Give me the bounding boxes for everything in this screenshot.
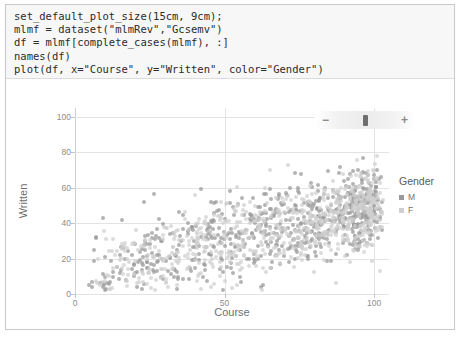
scatter-point xyxy=(219,200,223,204)
scatter-point xyxy=(228,189,232,193)
scatter-point xyxy=(183,210,187,214)
scatter-point xyxy=(294,195,298,199)
scatter-point xyxy=(293,203,297,207)
scatter-point xyxy=(214,200,218,204)
scatter-point xyxy=(370,181,374,185)
scatter-point xyxy=(195,279,199,283)
scatter-point xyxy=(331,179,335,183)
zoom-slider-handle[interactable] xyxy=(363,115,368,126)
scatter-point xyxy=(214,255,218,259)
legend-item-F[interactable]: F xyxy=(399,205,459,215)
scatter-point xyxy=(120,218,124,222)
scatter-point xyxy=(146,233,150,237)
x-tick-label: 0 xyxy=(73,298,78,308)
y-tick-label: 0 xyxy=(66,289,71,299)
scatter-point xyxy=(239,280,243,284)
scatter-point xyxy=(331,190,335,194)
scatter-point xyxy=(193,266,197,270)
scatter-point xyxy=(126,267,130,271)
scatter-point xyxy=(342,179,346,183)
scatter-point xyxy=(263,252,267,256)
scatter-point xyxy=(378,181,382,185)
scatter-point xyxy=(139,244,143,248)
scatter-point xyxy=(183,217,187,221)
scatter-point xyxy=(318,206,322,210)
scatter-point xyxy=(120,266,124,270)
scatter-point xyxy=(218,260,222,264)
scatter-point xyxy=(378,269,382,273)
scatter-point xyxy=(132,263,136,267)
scatter-point xyxy=(155,227,159,231)
scatter-point xyxy=(259,217,263,221)
legend-title: Gender xyxy=(399,175,459,187)
scatter-point xyxy=(263,186,267,190)
scatter-point xyxy=(96,257,100,261)
legend-entries: MF xyxy=(399,192,459,215)
scatter-point xyxy=(241,208,245,212)
scatter-point xyxy=(149,286,153,290)
scatter-point xyxy=(176,275,180,279)
scatter-point xyxy=(141,272,145,276)
scatter-point xyxy=(289,198,293,202)
scatter-point xyxy=(346,237,350,241)
scatter-point xyxy=(218,274,222,278)
scatter-point xyxy=(217,208,221,212)
scatter-point xyxy=(316,183,320,187)
scatter-point xyxy=(102,229,106,233)
scatter-point xyxy=(354,198,358,202)
scatter-point xyxy=(254,264,258,268)
scatter-point xyxy=(143,238,147,242)
scatter-point xyxy=(205,279,209,283)
scatter-point xyxy=(314,244,318,248)
scatter-point xyxy=(303,253,307,257)
scatter-point xyxy=(380,212,384,216)
scatter-point xyxy=(261,283,265,287)
scatter-point xyxy=(194,222,198,226)
scatter-point xyxy=(297,236,301,240)
legend-item-M[interactable]: M xyxy=(399,192,459,202)
scatter-point xyxy=(352,249,356,253)
scatter-point xyxy=(209,243,213,247)
scatter-point xyxy=(164,277,168,281)
legend-swatch-icon xyxy=(399,195,404,200)
scatter-point xyxy=(353,240,357,244)
scatter-point xyxy=(227,219,231,223)
scatter-point xyxy=(199,187,203,191)
scatter-point xyxy=(208,229,212,233)
scatter-point xyxy=(269,197,273,201)
scatter-point xyxy=(161,237,165,241)
scatter-point xyxy=(291,223,295,227)
scatter-point xyxy=(187,227,191,231)
scatter-point xyxy=(126,273,130,277)
scatter-point xyxy=(320,233,324,237)
scatter-point xyxy=(181,277,185,281)
scatter-point xyxy=(234,209,238,213)
scatter-point xyxy=(327,244,331,248)
scatter-point xyxy=(351,182,355,186)
scatter-point xyxy=(134,228,138,232)
scatter-point xyxy=(121,272,125,276)
scatter-point xyxy=(299,172,303,176)
scatter-point xyxy=(149,276,153,280)
scatter-point xyxy=(292,265,296,269)
y-tick-label: 60 xyxy=(62,183,71,193)
scatter-point xyxy=(378,218,382,222)
scatter-point xyxy=(314,191,318,195)
scatter-point xyxy=(187,265,191,269)
zoom-in-icon[interactable]: + xyxy=(401,114,408,126)
scatter-point xyxy=(132,272,136,276)
scatter-point xyxy=(333,227,337,231)
scatter-point xyxy=(212,282,216,286)
zoom-out-icon[interactable]: − xyxy=(322,114,329,126)
scatter-point xyxy=(288,186,292,190)
scatter-point xyxy=(349,174,353,178)
scatter-point xyxy=(152,192,156,196)
scatter-point xyxy=(234,254,238,258)
code-cell[interactable]: set_default_plot_size(15cm, 9cm);mlmf = … xyxy=(6,5,454,79)
scatter-point xyxy=(250,234,254,238)
scatter-point xyxy=(209,285,213,289)
scatter-point xyxy=(338,165,342,169)
zoom-toolbar[interactable]: − + xyxy=(315,111,415,129)
scatter-point xyxy=(333,231,337,235)
scatter-point xyxy=(188,248,192,252)
